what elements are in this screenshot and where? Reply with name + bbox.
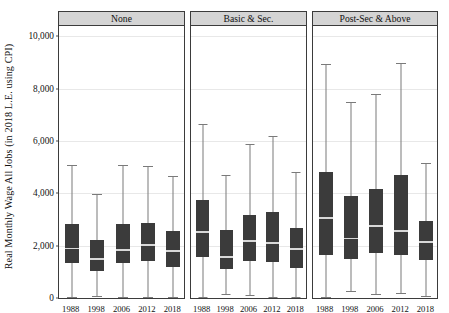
median-line — [290, 248, 303, 250]
whisker-cap-upper — [371, 94, 381, 95]
whisker-lower — [173, 267, 174, 298]
whisker-lower — [272, 262, 273, 297]
whisker-lower — [147, 261, 148, 297]
median-line — [319, 217, 333, 219]
whisker-cap-upper — [321, 64, 331, 65]
x-axis-tick-label: 1988 — [62, 304, 79, 313]
whisker-upper — [147, 166, 148, 222]
whisker-cap-lower — [421, 296, 431, 297]
whisker-cap-upper — [67, 165, 77, 166]
median-line — [344, 238, 358, 240]
whisker-lower — [296, 268, 297, 297]
whisker-cap-lower — [143, 297, 153, 298]
whisker-upper — [71, 165, 72, 224]
whisker-lower — [97, 271, 98, 297]
whisker-cap-lower — [346, 291, 356, 292]
x-axis-tick-label: 2018 — [417, 304, 434, 313]
median-line — [243, 240, 256, 242]
boxplot-box — [141, 26, 155, 298]
whisker-cap-lower — [321, 297, 331, 298]
x-axis-tick-label: 2018 — [164, 304, 181, 313]
whisker-upper — [122, 165, 123, 224]
whisker-cap-upper — [168, 176, 178, 177]
boxplot-box — [196, 26, 209, 298]
whisker-cap-upper — [198, 124, 207, 125]
x-axis-tick-label: 2006 — [366, 304, 383, 313]
iqr-box — [90, 240, 104, 271]
whisker-upper — [272, 136, 273, 212]
whisker-upper — [226, 175, 227, 230]
x-axis-tick-label: 1998 — [217, 304, 234, 313]
boxplot-box — [166, 26, 180, 298]
y-axis-tick-label: 4,000 — [33, 188, 54, 198]
median-line — [220, 256, 233, 258]
whisker-cap-upper — [268, 136, 277, 137]
y-axis-tick-label: 10,000 — [28, 31, 54, 41]
boxplot-box — [90, 26, 104, 298]
whisker-lower — [122, 263, 123, 296]
whisker-upper — [426, 163, 427, 221]
boxplot-box — [290, 26, 303, 298]
boxplot-box — [220, 26, 233, 298]
boxplot-box — [243, 26, 256, 298]
whisker-cap-upper — [421, 163, 431, 164]
whisker-cap-upper — [346, 102, 356, 103]
y-axis-tick-label: 0 — [49, 293, 54, 303]
whisker-upper — [350, 102, 351, 196]
whisker-upper — [173, 176, 174, 230]
median-line — [266, 242, 279, 244]
whisker-lower — [376, 253, 377, 294]
median-line — [166, 250, 180, 252]
whisker-upper — [249, 144, 250, 214]
whisker-cap-lower — [396, 293, 406, 294]
x-axis-tick-label: 1998 — [88, 304, 105, 313]
y-axis-title: Real Monthly Wage All Jobs (in 2018 L.E.… — [0, 0, 16, 313]
y-axis-tick-label: 8,000 — [33, 84, 54, 94]
iqr-box — [394, 175, 408, 255]
whisker-cap-upper — [245, 144, 254, 145]
whisker-cap-lower — [118, 297, 128, 298]
whisker-upper — [325, 64, 326, 172]
whisker-lower — [401, 255, 402, 293]
panel-plot-area — [313, 26, 437, 298]
x-axis-tick-labels: 19881998200620122018 — [190, 304, 307, 313]
y-axis-tick-labels: 02,0004,0006,0008,00010,000 — [16, 0, 60, 313]
iqr-box — [65, 224, 79, 263]
boxplot-box — [65, 26, 79, 298]
iqr-box — [266, 212, 279, 262]
y-axis-tick-label: 6,000 — [33, 136, 54, 146]
median-line — [141, 244, 155, 246]
whisker-cap-lower — [92, 296, 102, 297]
whisker-lower — [426, 260, 427, 297]
panel-header-label: Post-Sec & Above — [313, 12, 437, 26]
x-axis-tick-labels: 19881998200620122018 — [312, 304, 438, 313]
whisker-cap-upper — [222, 175, 231, 176]
boxplot-box — [266, 26, 279, 298]
whisker-upper — [202, 124, 203, 200]
iqr-box — [196, 200, 209, 257]
whisker-cap-upper — [118, 165, 128, 166]
boxplot-box — [419, 26, 433, 298]
whisker-cap-lower — [371, 294, 381, 295]
median-line — [116, 249, 130, 251]
whisker-lower — [249, 261, 250, 295]
whisker-lower — [226, 269, 227, 295]
whisker-cap-lower — [268, 297, 277, 298]
x-axis-tick-labels: 19881998200620122018 — [58, 304, 185, 313]
whisker-cap-upper — [292, 172, 301, 173]
x-axis-tick-label: 2012 — [138, 304, 155, 313]
iqr-box — [419, 221, 433, 260]
median-line — [369, 225, 383, 227]
boxplot-box — [344, 26, 358, 298]
y-axis-tick-label: 2,000 — [33, 241, 54, 251]
whisker-cap-lower — [67, 297, 77, 298]
x-axis-tick-label: 2018 — [287, 304, 304, 313]
iqr-box — [141, 223, 155, 261]
whisker-cap-upper — [396, 63, 406, 64]
whisker-lower — [350, 259, 351, 291]
median-line — [394, 230, 408, 232]
whisker-cap-upper — [143, 166, 153, 167]
boxplot-figure: Real Monthly Wage All Jobs (in 2018 L.E.… — [0, 0, 449, 313]
chart-panel: Basic & Sec. — [190, 11, 307, 299]
boxplot-box — [116, 26, 130, 298]
